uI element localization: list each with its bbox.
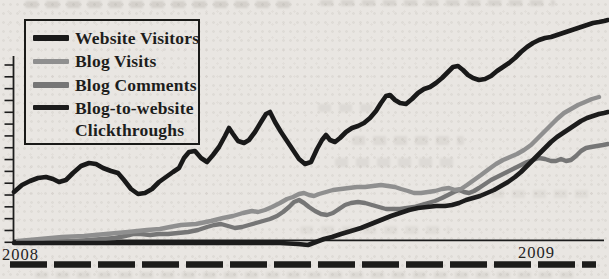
scanned-book-figure: Website Visitors Blog Visits Blog Commen… [0, 0, 609, 279]
legend-label-blog-comments: Blog Comments [75, 74, 197, 96]
legend-label-blog-visits: Blog Visits [75, 50, 156, 72]
legend-row-clickthroughs: Blog-to-website Clickthroughs [33, 97, 194, 144]
legend-label-website-visitors: Website Visitors [75, 27, 199, 49]
legend-swatch-clickthroughs [33, 105, 69, 111]
legend-label-clickthroughs: Blog-to-website Clickthroughs [75, 97, 194, 141]
legend-swatch-blog-comments [33, 82, 69, 88]
legend-label-clickthroughs-line1: Blog-to-website [75, 98, 194, 118]
x-axis-label-2008: 2008 [2, 245, 39, 265]
legend-row-blog-comments: Blog Comments [33, 73, 194, 97]
legend-swatch-blog-visits [33, 59, 69, 65]
chart-legend: Website Visitors Blog Visits Blog Commen… [24, 19, 200, 145]
legend-row-blog-visits: Blog Visits [33, 50, 194, 74]
legend-label-clickthroughs-line2: Clickthroughs [75, 120, 184, 140]
legend-row-website-visitors: Website Visitors [33, 26, 194, 50]
legend-swatch-website-visitors [33, 35, 69, 41]
x-axis-label-2009: 2009 [518, 243, 555, 263]
